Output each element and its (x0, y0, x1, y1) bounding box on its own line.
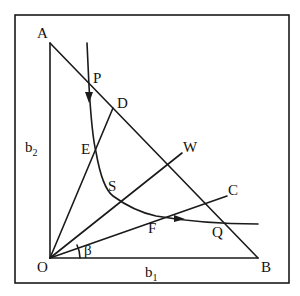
label-beta: β (84, 242, 92, 258)
label-c: C (228, 182, 238, 198)
label-b1: b1 (145, 264, 158, 283)
label-b2: b2 (25, 139, 38, 158)
label-p: P (93, 70, 101, 86)
label-a: A (37, 25, 48, 41)
ray-ow (50, 153, 182, 258)
label-o: O (37, 259, 48, 275)
arrow-right-icon (174, 215, 185, 222)
label-f: F (148, 220, 156, 236)
label-e: E (81, 141, 90, 157)
label-d: D (117, 95, 128, 111)
arrow-down-icon (85, 92, 93, 103)
label-q: Q (212, 224, 223, 240)
label-b: B (261, 259, 271, 275)
diagram-canvas: A P D E W S C F Q O B b2 b1 β (0, 0, 300, 296)
ray-oc (50, 196, 227, 258)
label-s: S (108, 178, 116, 194)
label-w: W (183, 139, 198, 155)
